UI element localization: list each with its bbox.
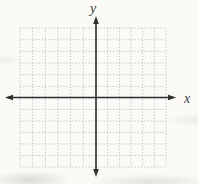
y-axis-label: y <box>88 1 97 16</box>
coordinate-plane-figure: x y <box>0 0 198 184</box>
coordinate-plane-svg: x y <box>0 0 198 184</box>
arrowhead-right-icon <box>168 95 176 101</box>
arrowhead-up-icon <box>93 16 99 24</box>
x-axis-label: x <box>183 91 191 106</box>
arrowhead-left-icon <box>5 95 13 101</box>
y-axis: y <box>88 1 99 177</box>
arrowhead-down-icon <box>93 169 99 177</box>
